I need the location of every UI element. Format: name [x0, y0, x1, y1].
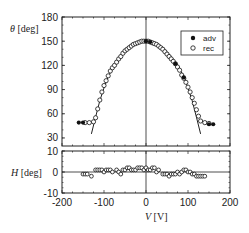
legend-marker-adv	[191, 36, 195, 40]
adv-point	[182, 75, 186, 79]
rec-point	[104, 79, 108, 83]
upper-ylabel-symbol: θ	[10, 23, 15, 34]
legend-label-adv: adv	[203, 34, 216, 43]
h-point	[203, 174, 207, 178]
lower-xtick-labels: -200-1000100200	[52, 197, 239, 208]
chart: 306090120150180 θ [deg] adv rec -10010 -…	[0, 0, 249, 233]
rec-point	[196, 114, 200, 118]
h-point	[153, 166, 157, 170]
xtick-label: 0	[143, 197, 149, 208]
rec-point	[184, 80, 188, 84]
upper-ytick-label: 120	[41, 60, 58, 71]
rec-point	[203, 121, 207, 125]
legend-marker-rec	[191, 46, 195, 50]
upper-ytick-label: 180	[41, 12, 58, 23]
upper-ytick-label: 150	[41, 36, 58, 47]
lower-ytick-label: 0	[52, 167, 58, 178]
adv-point	[77, 121, 81, 125]
xtick-label: 200	[222, 197, 239, 208]
legend-box	[181, 31, 223, 55]
upper-ytick-label: 90	[47, 84, 59, 95]
rec-point	[190, 96, 194, 100]
adv-point	[173, 62, 177, 66]
lower-points	[81, 166, 207, 178]
lower-ylabel: H [deg]	[10, 167, 42, 178]
rec-point	[178, 68, 182, 72]
rec-point	[100, 90, 104, 94]
adv-point	[207, 122, 211, 126]
adv-point	[144, 39, 148, 43]
rec-point	[199, 119, 203, 123]
xtick-label: -100	[94, 197, 114, 208]
lower-ylabel-symbol: H	[10, 167, 19, 178]
adv-point	[81, 121, 85, 125]
xtick-label: 100	[180, 197, 197, 208]
xlabel-unit: [V]	[154, 211, 168, 222]
h-point	[85, 172, 89, 176]
h-point	[111, 170, 115, 174]
h-point	[157, 168, 161, 172]
legend-label-rec: rec	[203, 44, 214, 53]
h-point	[119, 172, 123, 176]
rec-point	[194, 108, 198, 112]
adv-point	[211, 122, 215, 126]
rec-point	[186, 85, 190, 89]
adv-point	[148, 40, 152, 44]
upper-ylabel-unit: [deg]	[17, 23, 38, 34]
rec-point	[102, 83, 106, 87]
upper-ytick-label: 30	[47, 132, 59, 143]
rec-point	[192, 101, 196, 105]
xlabel-symbol: V	[145, 211, 153, 222]
lower-ytick-label: 10	[47, 146, 59, 157]
xlabel: V [V]	[145, 211, 168, 222]
rec-point	[96, 107, 100, 111]
lower-ytick-labels: -10010	[44, 146, 59, 199]
rec-point	[87, 121, 91, 125]
xtick-label: -200	[52, 197, 72, 208]
rec-point	[94, 116, 98, 120]
rec-point	[98, 98, 102, 102]
upper-panel: 306090120150180 θ [deg] adv rec	[10, 12, 230, 147]
lower-panel: -10010 -200-1000100200 H [deg] V [V]	[10, 146, 239, 223]
h-point	[90, 174, 94, 178]
lower-ylabel-unit: [deg]	[21, 167, 42, 178]
upper-ytick-labels: 306090120150180	[41, 12, 58, 144]
rec-point	[91, 120, 95, 124]
rec-point	[106, 74, 110, 78]
upper-ytick-label: 60	[47, 108, 59, 119]
rec-point	[188, 90, 192, 94]
upper-ylabel: θ [deg]	[10, 23, 39, 34]
legend: adv rec	[181, 31, 223, 55]
